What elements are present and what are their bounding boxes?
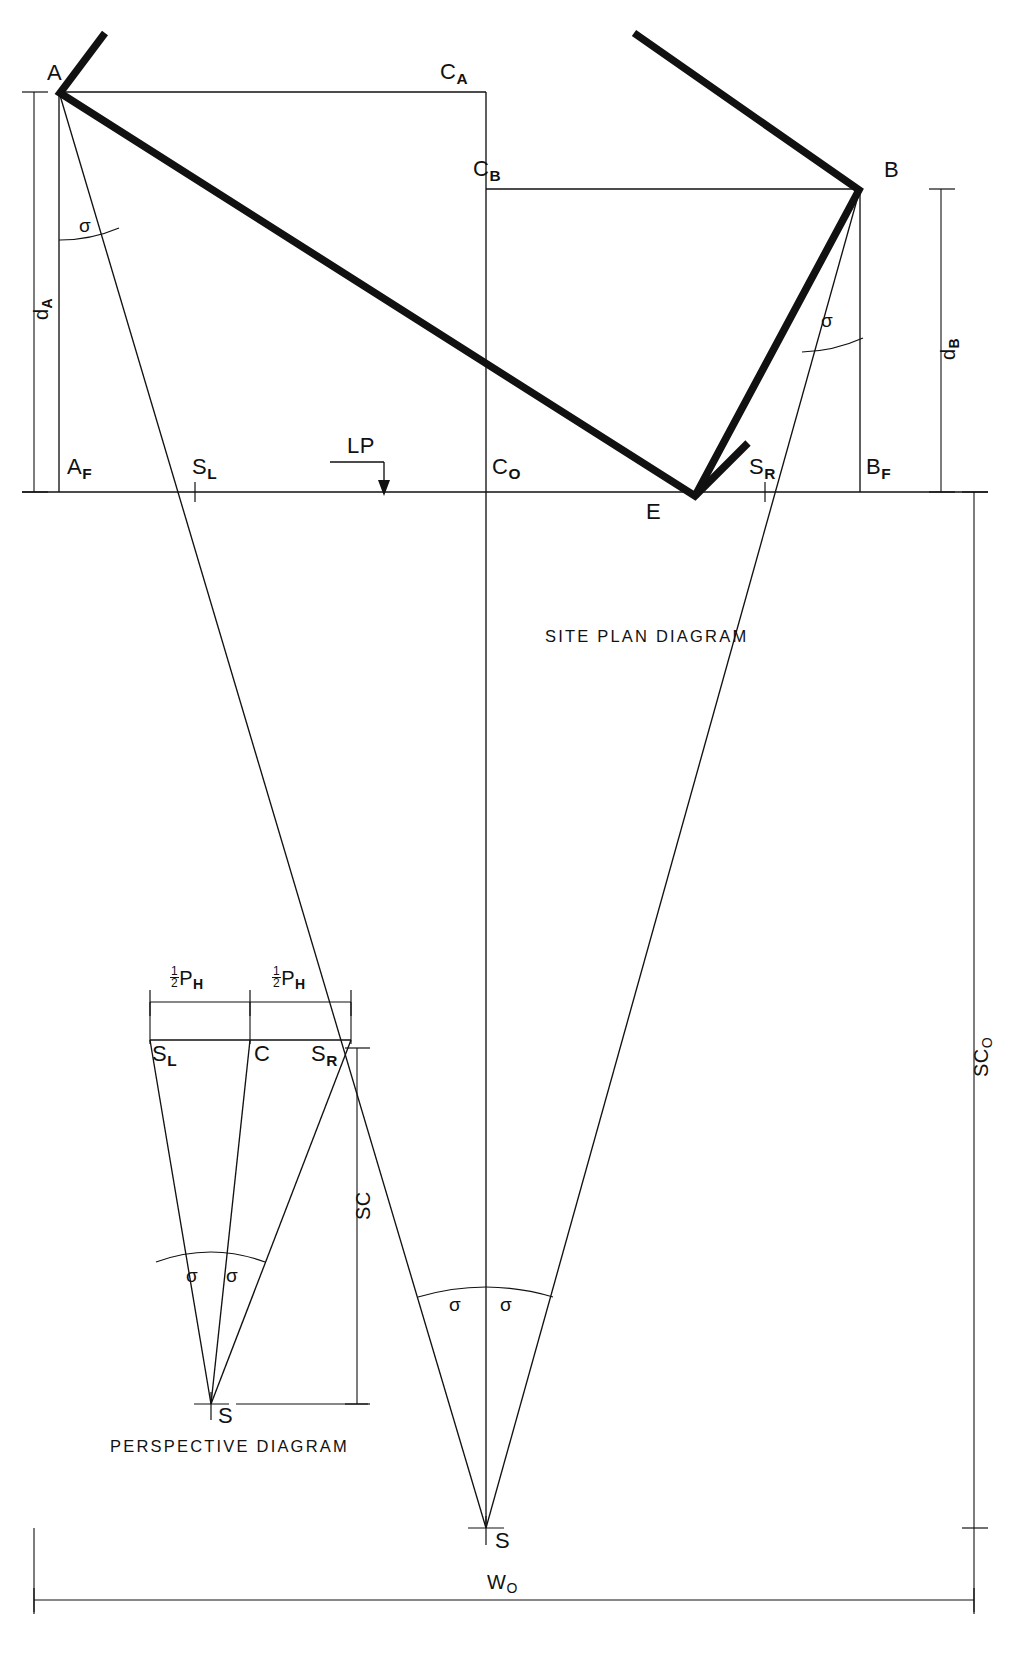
technical-drawing-svg — [0, 0, 1016, 1673]
label-point-CO: CO — [492, 456, 520, 481]
label-point-SR-perspective: SR — [311, 1043, 337, 1068]
label-sigma-at-A: σ — [79, 216, 91, 235]
angle-arc-sigma-right-at-S — [486, 1287, 553, 1297]
label-point-SL-perspective: SL — [152, 1043, 177, 1068]
label-sigma-left-perspective: σ — [186, 1266, 198, 1285]
building-outline-left — [60, 33, 748, 496]
label-point-CB: CB — [473, 158, 501, 183]
label-point-B: B — [884, 159, 899, 181]
label-sigma-at-B: σ — [821, 311, 833, 330]
perspective-left-ray — [150, 1040, 211, 1404]
label-dimension-Wo: WO — [487, 1572, 517, 1595]
title-site-plan-diagram: SITE PLAN DIAGRAM — [545, 628, 748, 645]
label-lp: LP — [347, 435, 375, 457]
label-point-S-siteplan: S — [495, 1530, 510, 1552]
perspective-right-ray — [211, 1040, 351, 1404]
label-sigma-right-perspective: σ — [226, 1266, 238, 1285]
label-point-CA: CA — [440, 61, 468, 86]
perspective-angle-arc-right — [211, 1252, 265, 1262]
label-dimension-halfPH-left: 12PH — [170, 966, 203, 991]
label-dimension-dB: dB — [938, 338, 961, 360]
dimension-SC — [236, 1048, 370, 1404]
dimension-SCo-extension — [962, 492, 988, 1528]
label-point-S-perspective: S — [218, 1405, 233, 1427]
title-perspective-diagram: PERSPECTIVE DIAGRAM — [110, 1438, 349, 1455]
label-dimension-SC: SC — [353, 1191, 373, 1220]
label-point-A: A — [47, 62, 62, 84]
label-dimension-dA: dA — [31, 298, 54, 320]
drawing-canvas: A B CA CB CO E AF BF SL SR S σ σ σ σ dA … — [0, 0, 1016, 1673]
perspective-center-axis — [211, 1040, 250, 1404]
label-point-E: E — [646, 501, 661, 523]
dimension-dA-extension — [22, 92, 48, 492]
dimension-halfPH — [150, 990, 351, 1044]
sightline-B-to-S — [486, 189, 860, 1528]
label-dimension-SCo: SCO — [971, 1037, 994, 1077]
label-sigma-right-at-S: σ — [500, 1295, 512, 1314]
label-sigma-left-at-S: σ — [449, 1295, 461, 1314]
label-point-BF: BF — [866, 456, 891, 481]
label-dimension-halfPH-right: 12PH — [272, 966, 305, 991]
lp-leader — [330, 462, 390, 496]
label-point-AF: AF — [67, 456, 92, 481]
sightline-A-to-S — [59, 92, 486, 1528]
perspective-angle-arc-left — [156, 1252, 211, 1262]
label-point-C-perspective: C — [254, 1043, 270, 1065]
label-point-SR-siteplan: SR — [749, 456, 775, 481]
building-outline-right — [634, 33, 859, 496]
label-point-SL-siteplan: SL — [192, 456, 217, 481]
angle-arc-sigma-at-B — [802, 338, 863, 352]
